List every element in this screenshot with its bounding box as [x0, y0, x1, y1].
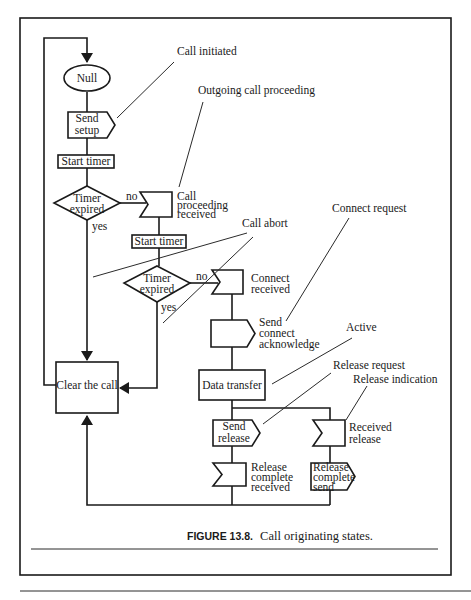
callout-active: Active [346, 321, 377, 333]
timer-expired-2-decision: Timer expired [124, 266, 190, 302]
callout-call-abort: Call abort [242, 217, 288, 229]
null-label: Null [77, 72, 97, 84]
yes-label-1: yes [92, 220, 108, 233]
data-transfer-label: Data transfer [202, 379, 262, 391]
callout-line-release-request [263, 373, 331, 424]
timer-expired-1-line2: expired [70, 203, 105, 216]
figure-caption-text: Call originating states. [260, 529, 373, 543]
call-proceeding-received-node: Call proceeding received [140, 190, 228, 220]
figure-caption-label: FIGURE 13.8. [187, 530, 253, 542]
start-timer-1-node: Start timer [58, 155, 114, 168]
connect-received-node: Connect received [212, 270, 290, 295]
cpr-line3: received [177, 208, 216, 220]
callout-release-indication: Release indication [353, 373, 438, 385]
rcs-line3: send [313, 481, 334, 493]
callout-call-initiated: Call initiated [177, 45, 237, 57]
no-label-2: no [196, 270, 208, 282]
sca-line3: acknowledge [259, 338, 320, 351]
connector-yes2-clear [120, 302, 157, 388]
callout-outgoing-call-proceeding: Outgoing call proceeding [198, 84, 315, 97]
callout-release-request: Release request [333, 359, 406, 372]
send-setup-node: Send setup [68, 112, 115, 138]
callout-line-connect-request [286, 218, 349, 321]
callout-line-outgoing-call-proceeding [179, 102, 203, 187]
callout-connect-request: Connect request [332, 202, 407, 215]
figure-caption: FIGURE 13.8. Call originating states. [187, 529, 373, 543]
timer-expired-2-line2: expired [140, 283, 175, 296]
figure-frame [20, 18, 451, 575]
callout-line-release-indication [346, 386, 367, 420]
clear-the-call-node: Clear the call [56, 362, 118, 413]
start-timer-1-label: Start timer [62, 155, 111, 167]
send-release-line2: release [218, 432, 250, 444]
send-release-line1: Send [223, 420, 246, 432]
no-label-1: no [126, 190, 138, 202]
callout-line-call-initiated [117, 62, 174, 118]
send-setup-line2: setup [75, 124, 100, 137]
connect-received-line2: received [251, 283, 290, 295]
send-release-node: Send release [213, 420, 260, 446]
send-setup-line1: Send [76, 112, 99, 124]
start-timer-2-label: Start timer [135, 235, 184, 247]
release-complete-send-node: Release complete send [311, 461, 355, 493]
data-transfer-node: Data transfer [199, 370, 265, 400]
received-release-line2: release [349, 433, 381, 445]
connector-release-return [87, 416, 330, 505]
received-release-line1: Received [349, 421, 392, 433]
call-originating-states-diagram: Null Send setup Start timer Timer expire… [0, 0, 471, 600]
start-timer-2-node: Start timer [132, 235, 186, 248]
received-release-node: Received release [313, 420, 392, 446]
timer-expired-1-decision: Timer expired [54, 186, 120, 220]
send-connect-ack-node: Send connect acknowledge [211, 316, 320, 351]
rcr-line3: received [251, 481, 290, 493]
null-state-node: Null [64, 65, 110, 91]
clear-the-call-label: Clear the call [56, 379, 117, 391]
connector-split-right [232, 408, 330, 420]
release-complete-received-node: Release complete received [213, 461, 293, 493]
